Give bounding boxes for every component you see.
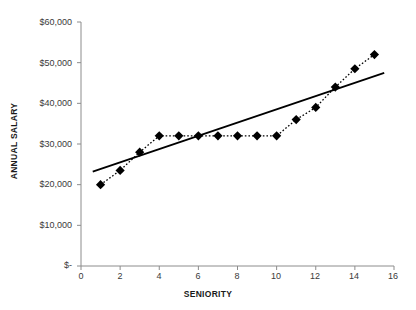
data-point-marker bbox=[155, 131, 164, 140]
trend-line bbox=[93, 73, 384, 172]
data-point-marker bbox=[252, 131, 261, 140]
y-axis-ticks bbox=[77, 22, 81, 266]
data-series-dotted-line bbox=[101, 55, 375, 185]
data-point-marker bbox=[311, 103, 320, 112]
data-point-marker bbox=[194, 131, 203, 140]
x-axis-ticks bbox=[81, 266, 394, 270]
data-point-marker bbox=[233, 131, 242, 140]
data-point-marker bbox=[96, 180, 105, 189]
chart-container: ANNUAL SALARY SENIORITY $60,000 $50,000 … bbox=[0, 0, 416, 310]
data-point-marker bbox=[213, 131, 222, 140]
data-point-marker bbox=[174, 131, 183, 140]
data-point-marker bbox=[370, 50, 379, 59]
data-point-marker bbox=[116, 166, 125, 175]
data-markers bbox=[96, 50, 379, 189]
data-point-marker bbox=[292, 115, 301, 124]
plot-area bbox=[0, 0, 416, 310]
